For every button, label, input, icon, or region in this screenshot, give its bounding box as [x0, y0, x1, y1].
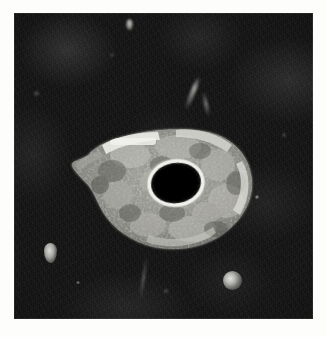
figure-caption	[0, 0, 1, 1]
cell	[66, 121, 256, 253]
nucleus-group	[145, 157, 207, 209]
figure-root	[0, 0, 327, 337]
micrograph-plate	[14, 13, 313, 319]
cell-svg	[66, 121, 256, 253]
